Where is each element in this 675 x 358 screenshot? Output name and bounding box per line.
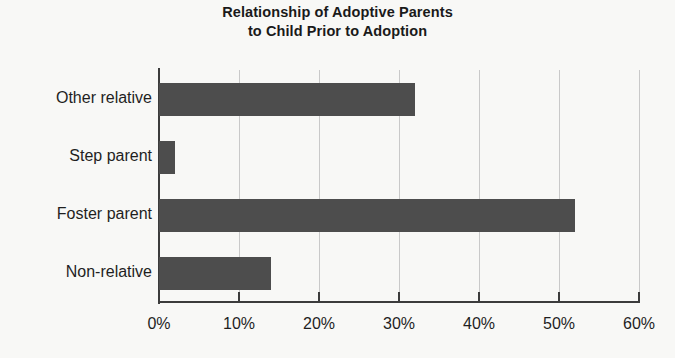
gridline-50% — [559, 70, 560, 302]
category-label-other-relative: Other relative — [0, 89, 152, 107]
x-tick-label-20%: 20% — [284, 315, 354, 333]
category-label-non-relative: Non-relative — [0, 263, 152, 281]
tick-mark-10% — [238, 292, 240, 303]
tick-mark-20% — [318, 292, 320, 303]
gridline-60% — [639, 70, 640, 302]
plot-area — [159, 70, 639, 302]
category-label-step-parent: Step parent — [0, 147, 152, 165]
bar-other-relative — [159, 83, 415, 116]
bar-non-relative — [159, 257, 271, 290]
tick-mark-30% — [398, 292, 400, 303]
x-tick-label-50%: 50% — [524, 315, 594, 333]
chart-page: Relationship of Adoptive Parents to Chil… — [0, 0, 675, 358]
bar-foster-parent — [159, 199, 575, 232]
x-tick-label-60%: 60% — [604, 315, 674, 333]
category-label-foster-parent: Foster parent — [0, 205, 152, 223]
x-tick-label-10%: 10% — [204, 315, 274, 333]
category-axis-labels: Other relativeStep parentFoster parentNo… — [0, 0, 152, 358]
tick-mark-60% — [638, 292, 640, 303]
gridline-40% — [479, 70, 480, 302]
tick-mark-40% — [478, 292, 480, 303]
x-tick-label-0%: 0% — [124, 315, 194, 333]
x-tick-label-30%: 30% — [364, 315, 434, 333]
tick-mark-50% — [558, 292, 560, 303]
x-tick-label-40%: 40% — [444, 315, 514, 333]
bar-step-parent — [159, 141, 175, 174]
tick-mark-0% — [158, 292, 160, 303]
